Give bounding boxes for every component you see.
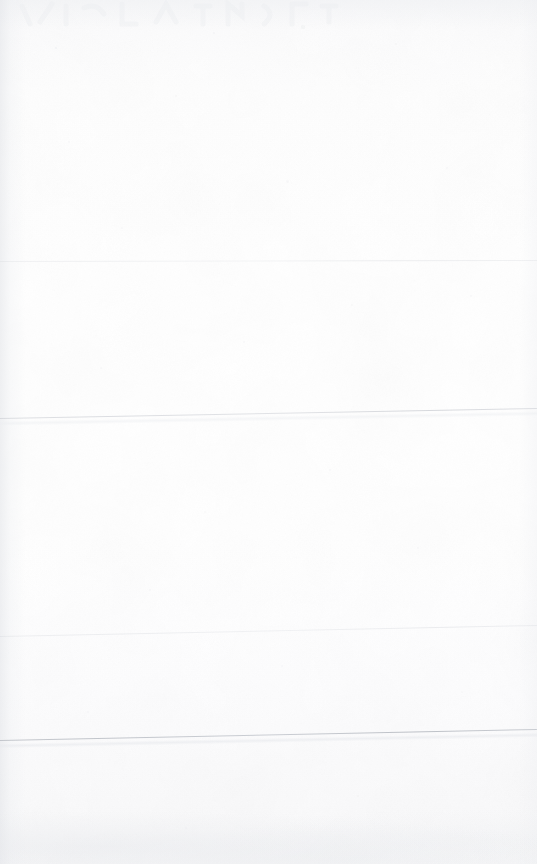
bottom-smudge-band [0,778,537,864]
ruled-lines-layer [0,0,537,864]
dust-speck [461,691,463,693]
dust-speck [204,511,206,513]
dust-speck [301,25,304,28]
rule-line-1 [0,260,537,262]
scanned-page [0,0,537,864]
dust-speck [68,141,70,143]
dust-speck [243,341,245,343]
rule-line-3 [0,625,537,637]
dust-speck [286,180,289,183]
